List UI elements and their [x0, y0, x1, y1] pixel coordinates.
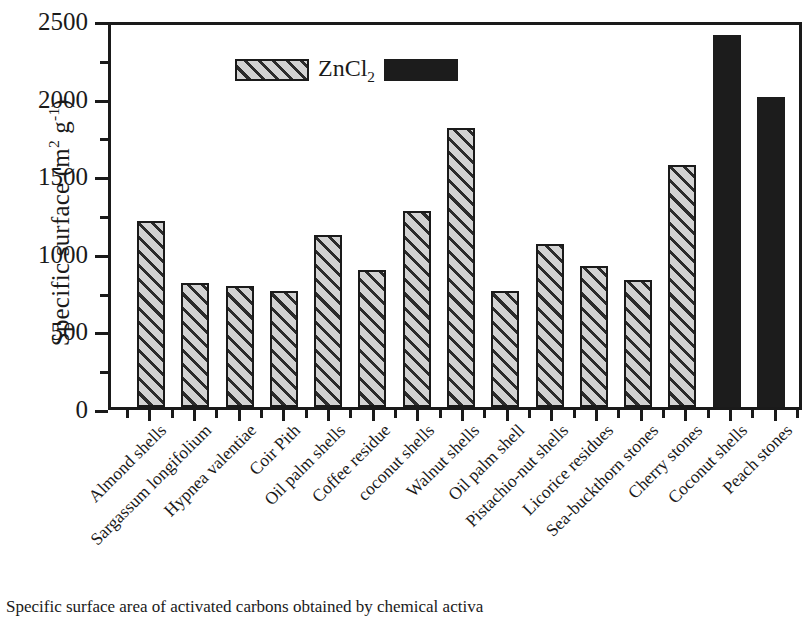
x-tick-boundary: [707, 410, 710, 418]
bar-slot: [572, 25, 616, 407]
bar-slot: [660, 25, 704, 407]
bar-licorice-residues[interactable]: [580, 266, 608, 407]
y-tick-major: [95, 177, 108, 180]
bar-peach-stones[interactable]: [757, 97, 785, 407]
bar-coconut-shells[interactable]: [713, 35, 741, 407]
y-tick-minor: [100, 371, 108, 374]
x-tick-boundary: [439, 410, 442, 418]
x-tick-boundary: [573, 410, 576, 418]
y-tick-major: [95, 100, 108, 103]
y-tick-label: 2500: [38, 8, 88, 36]
x-tick-boundary: [171, 410, 174, 418]
bar-cherry-stones[interactable]: [668, 165, 696, 407]
legend-hatch-swatch: [235, 59, 309, 81]
y-tick-major: [95, 255, 108, 258]
y-tick-minor: [100, 294, 108, 297]
bar-hypnea-valentiae[interactable]: [226, 286, 254, 407]
x-tick-boundary: [662, 410, 665, 418]
bar-oil-palm-shell[interactable]: [491, 291, 519, 407]
legend-solid-swatch: [384, 59, 458, 81]
bar-slot: [527, 25, 571, 407]
legend: ZnCl2: [235, 57, 458, 83]
bar-slot: [129, 25, 173, 407]
y-tick-label: 500: [51, 318, 89, 346]
x-tick-boundary: [751, 410, 754, 418]
y-tick-label: 1000: [38, 241, 88, 269]
x-tick-boundary: [305, 410, 308, 418]
bar-sea-buckthorn-stones[interactable]: [624, 280, 652, 407]
x-tick-boundary: [349, 410, 352, 418]
bar-pistachio-nut-shells[interactable]: [536, 244, 564, 407]
bar-slot: [704, 25, 748, 407]
x-tick-boundary: [483, 410, 486, 418]
bar-slot: [749, 25, 793, 407]
y-tick-minor: [100, 61, 108, 64]
y-tick-major: [95, 22, 108, 25]
bar-slot: [173, 25, 217, 407]
y-axis-title-mid: g: [47, 121, 74, 140]
figure-caption: Specific surface area of activated carbo…: [6, 596, 802, 619]
y-tick-minor: [100, 138, 108, 141]
bar-walnut-shells[interactable]: [447, 128, 475, 407]
bar-coffee-residue[interactable]: [358, 270, 386, 407]
plot-area: ZnCl2: [108, 22, 802, 410]
bar-sargassum-longifolium[interactable]: [181, 283, 209, 407]
x-tick-boundary: [215, 410, 218, 418]
x-tick-boundary: [796, 410, 799, 418]
y-tick-major: [95, 410, 108, 413]
x-tick-boundary: [126, 410, 129, 418]
bar-slot: [483, 25, 527, 407]
bar-almond-shells[interactable]: [137, 221, 165, 407]
y-axis-title: Specific surface (m2 g-1): [45, 23, 74, 423]
x-axis-labels: Almond shellsSargassum longifoliumHypnea…: [0, 418, 808, 588]
legend-label-subscript: 2: [367, 67, 375, 84]
x-tick-boundary: [617, 410, 620, 418]
x-tick-boundary: [528, 410, 531, 418]
bar-slot: [616, 25, 660, 407]
bar-coconut-shells[interactable]: [403, 211, 431, 407]
legend-label-zncl2: ZnCl2: [318, 55, 375, 86]
figure-container: Specific surface (m2 g-1) ZnCl2 05001000…: [0, 0, 808, 625]
x-tick-boundary: [394, 410, 397, 418]
y-tick-label: 1500: [38, 163, 88, 191]
bar-coir-pith[interactable]: [270, 291, 298, 407]
legend-label-text: ZnCl: [318, 55, 367, 81]
bar-oil-palm-shells[interactable]: [314, 235, 342, 407]
y-tick-minor: [100, 216, 108, 219]
y-tick-major: [95, 332, 108, 335]
y-tick-label: 2000: [38, 86, 88, 114]
x-tick-boundary: [260, 410, 263, 418]
y-axis-title-exponent-2: 2: [45, 140, 62, 148]
